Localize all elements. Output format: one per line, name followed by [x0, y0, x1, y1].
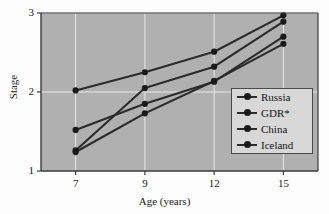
- legend-item-china: China: [232, 121, 312, 137]
- legend-label: Iceland: [261, 139, 293, 151]
- data-point: [280, 41, 286, 47]
- data-point: [211, 64, 217, 70]
- legend-marker-icon: [236, 139, 258, 151]
- legend-label: Russia: [261, 91, 290, 103]
- data-point: [280, 34, 286, 40]
- y-tick-label: 3: [16, 6, 34, 18]
- data-point: [211, 78, 217, 84]
- legend-item-gdr: GDR*: [232, 105, 312, 121]
- legend-item-iceland: Iceland: [232, 137, 312, 153]
- data-point: [211, 49, 217, 55]
- legend-marker-icon: [236, 107, 258, 119]
- y-tick-label: 1: [16, 164, 34, 176]
- y-tick-label: 2: [16, 85, 34, 97]
- data-point: [142, 101, 148, 107]
- x-tick-label: 9: [134, 177, 156, 189]
- x-tick-label: 15: [272, 177, 294, 189]
- chart-legend: RussiaGDR*ChinaIceland: [231, 88, 313, 154]
- chart-figure: Age (years) Stage 791215 123 RussiaGDR*C…: [0, 0, 329, 214]
- data-point: [73, 127, 79, 133]
- x-axis-title: Age (years): [0, 195, 329, 207]
- x-tick-label: 7: [65, 177, 87, 189]
- data-point: [280, 19, 286, 25]
- legend-marker-icon: [236, 91, 258, 103]
- data-point: [73, 87, 79, 93]
- legend-marker-icon: [236, 123, 258, 135]
- data-point: [142, 85, 148, 91]
- data-point: [142, 69, 148, 75]
- legend-item-russia: Russia: [232, 89, 312, 105]
- data-point: [142, 110, 148, 116]
- legend-label: GDR*: [261, 107, 290, 119]
- legend-label: China: [261, 123, 287, 135]
- data-point: [73, 149, 79, 155]
- x-tick-label: 12: [203, 177, 225, 189]
